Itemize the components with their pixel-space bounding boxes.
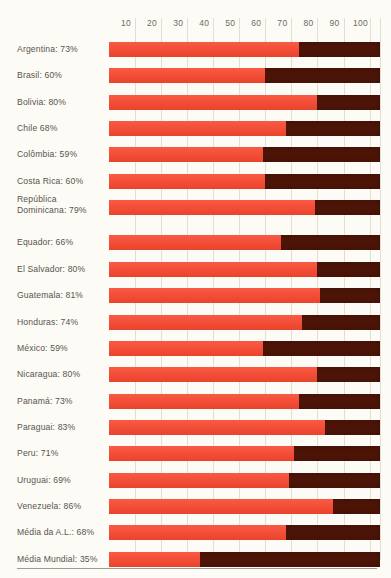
category-label: Brasil: 60% — [17, 70, 112, 81]
bar-segment-value — [109, 174, 265, 189]
bar-track — [109, 200, 380, 215]
category-label: Uruguai: 69% — [17, 475, 112, 486]
bar-track — [109, 394, 380, 409]
bar-row — [109, 499, 380, 514]
category-label: Bolivia: 80% — [17, 97, 112, 108]
bar-row — [109, 174, 380, 189]
bar-segment-value — [109, 446, 294, 461]
bar-row — [109, 394, 380, 409]
bar-row — [109, 315, 380, 330]
bar-row — [109, 235, 380, 250]
category-label: Nicaragua: 80% — [17, 369, 112, 380]
bar-row — [109, 262, 380, 277]
category-label: Venezuela: 86% — [17, 501, 112, 512]
category-label: Média da A.L.: 68% — [17, 527, 112, 538]
bar-segment-value — [109, 367, 317, 382]
category-label: República Dominicana: 79% — [17, 194, 112, 215]
bar-row — [109, 68, 380, 83]
bar-track — [109, 499, 380, 514]
category-labels-layer: Argentina: 73%Brasil: 60%Bolivia: 80%Chi… — [0, 18, 104, 560]
bar-row — [109, 147, 380, 162]
category-label: Guatemala: 81% — [17, 290, 112, 301]
bar-track — [109, 235, 380, 250]
bar-segment-value — [109, 341, 263, 356]
category-label: Média Mundial: 35% — [17, 554, 112, 565]
bar-segment-value — [109, 95, 317, 110]
bar-segment-value — [109, 552, 200, 567]
bar-segment-value — [109, 288, 320, 303]
bar-track — [109, 262, 380, 277]
bar-row — [109, 552, 380, 567]
bar-segment-value — [109, 147, 263, 162]
category-label: Argentina: 73% — [17, 44, 112, 55]
bar-track — [109, 121, 380, 136]
bar-row — [109, 446, 380, 461]
category-label: Paraguai: 83% — [17, 422, 112, 433]
bar-track — [109, 446, 380, 461]
bar-segment-value — [109, 121, 286, 136]
category-label: Chile 68% — [17, 123, 112, 134]
bar-segment-value — [109, 235, 281, 250]
plot-area: 102030405060708090100 — [109, 18, 380, 560]
bar-row — [109, 42, 380, 57]
category-label: Costa Rica: 60% — [17, 176, 112, 187]
bar-track — [109, 42, 380, 57]
category-label: Peru: 71% — [17, 448, 112, 459]
bar-segment-value — [109, 420, 325, 435]
category-label: México: 59% — [17, 343, 112, 354]
bar-track — [109, 341, 380, 356]
bar-track — [109, 288, 380, 303]
category-label: El Salvador: 80% — [17, 264, 112, 275]
bar-row — [109, 121, 380, 136]
bar-segment-value — [109, 42, 299, 57]
bottom-divider — [17, 568, 377, 569]
bar-segment-value — [109, 68, 265, 83]
bar-track — [109, 473, 380, 488]
category-label: Honduras: 74% — [17, 317, 112, 328]
bar-row — [109, 420, 380, 435]
bar-track — [109, 147, 380, 162]
category-label: Colômbia: 59% — [17, 149, 112, 160]
bar-track — [109, 552, 380, 567]
bar-track — [109, 420, 380, 435]
bar-track — [109, 367, 380, 382]
bars-layer — [109, 18, 380, 560]
bar-row — [109, 200, 380, 215]
bar-track — [109, 68, 380, 83]
bar-segment-value — [109, 499, 333, 514]
bar-row — [109, 367, 380, 382]
bar-track — [109, 525, 380, 540]
bar-row — [109, 288, 380, 303]
category-label: Panamá: 73% — [17, 396, 112, 407]
bar-track — [109, 95, 380, 110]
bar-row — [109, 525, 380, 540]
bar-segment-value — [109, 262, 317, 277]
chart-container: 102030405060708090100 Argentina: 73%Bras… — [0, 0, 391, 578]
gridline-end — [380, 18, 381, 560]
bar-segment-value — [109, 394, 299, 409]
bar-segment-value — [109, 525, 286, 540]
bar-track — [109, 174, 380, 189]
bar-segment-value — [109, 200, 315, 215]
bar-segment-value — [109, 473, 289, 488]
bar-row — [109, 95, 380, 110]
bar-row — [109, 341, 380, 356]
bar-row — [109, 473, 380, 488]
bar-segment-value — [109, 315, 302, 330]
category-label: Equador: 66% — [17, 237, 112, 248]
bar-track — [109, 315, 380, 330]
